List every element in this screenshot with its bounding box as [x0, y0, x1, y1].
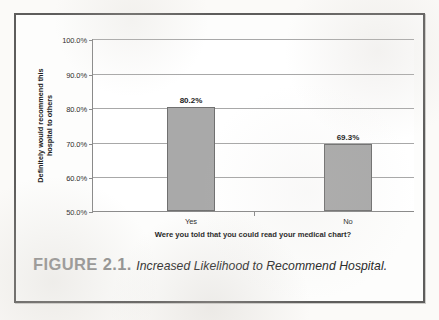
ytick-label-60: 60.0%	[66, 174, 87, 183]
ytick-mark-50	[89, 212, 93, 213]
ytick-mark-80	[89, 109, 93, 110]
y-axis-title-line-2: hospital to others	[45, 95, 54, 156]
ytick-mark-100	[89, 40, 93, 41]
figure-panel: Definitely would recommend this hospital…	[14, 13, 425, 303]
ytick-mark-70	[89, 144, 93, 145]
gridline-90: 90.0%	[93, 74, 414, 75]
ytick-mark-90	[89, 75, 93, 76]
x-axis-title: Were you told that you could read your m…	[92, 230, 414, 239]
gridline-80: 80.0%	[93, 108, 414, 109]
gridline-100: 100.0%	[93, 39, 414, 40]
y-axis-title-line-1: Definitely would recommend this	[36, 68, 45, 182]
bar-no[interactable]: 69.3% No	[324, 144, 372, 211]
figure-caption-label: FIGURE 2.1.	[33, 255, 132, 273]
ytick-label-80: 80.0%	[66, 105, 87, 114]
ytick-label-50: 50.0%	[66, 208, 87, 217]
bar-value-no: 69.3%	[337, 133, 360, 142]
figure-caption: FIGURE 2.1. Increased Likelihood to Reco…	[33, 253, 411, 277]
figure-caption-text: Increased Likelihood to Recommend Hospit…	[136, 259, 387, 273]
bar-chart: Definitely would recommend this hospital…	[16, 15, 423, 247]
y-axis-title: Definitely would recommend this hospital…	[34, 39, 56, 212]
bar-value-yes: 80.2%	[180, 96, 203, 105]
plot-area: 100.0% 90.0% 80.0% 70.0% 60.0% 50.0%	[92, 39, 414, 212]
ytick-label-70: 70.0%	[66, 139, 87, 148]
bar-yes[interactable]: 80.2% Yes	[167, 107, 215, 212]
category-label-no: No	[343, 217, 353, 226]
ytick-label-100: 100.0%	[62, 36, 87, 45]
ytick-label-90: 90.0%	[66, 70, 87, 79]
ytick-mark-60	[89, 178, 93, 179]
category-label-yes: Yes	[185, 217, 197, 226]
xtick-mark-divider	[254, 211, 255, 216]
